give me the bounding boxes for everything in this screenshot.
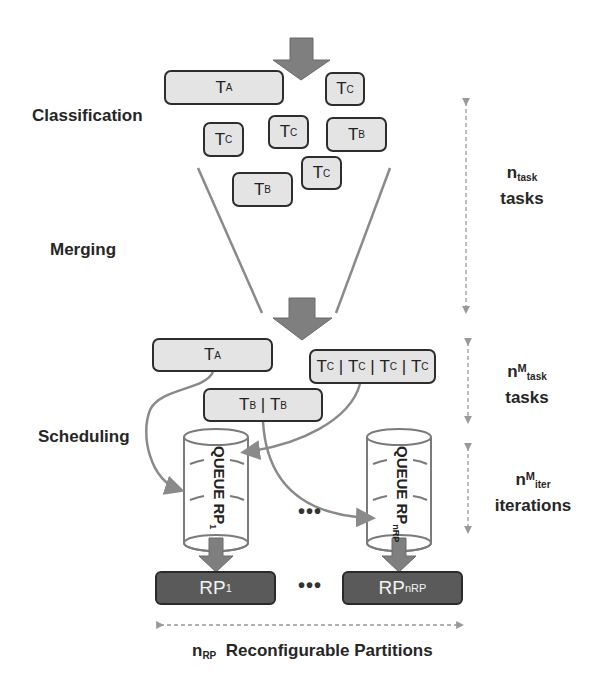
task-box-c: TC [301,156,342,190]
chain-separator: | [256,395,270,415]
count-superscript: M [518,362,527,374]
count-symbol: n [515,470,525,489]
task-class: C [421,361,428,372]
annotation-partitions: nRP Reconfigurable Partitions [192,641,433,661]
count-unit: iterations [495,496,572,515]
partition-index: nRP [405,582,426,594]
task-box-a: TA [164,70,284,105]
merged-task-b-chain: TB | TB [203,388,323,422]
partition-rp-1: RP1 [155,571,276,605]
task-name: T [204,345,214,365]
task-name: T [254,180,264,200]
stage-label-classification: Classification [32,106,143,126]
diagram-graphics [0,0,591,688]
task-class: C [390,361,397,372]
partition-name: RP [199,577,225,599]
task-class: C [327,361,334,372]
chain-separator: | [397,357,411,377]
task-name: T [348,357,358,377]
task-box-b: TB [326,117,387,152]
count-subscript: iter [535,479,551,490]
task-class: B [264,184,271,195]
task-class: B [280,400,287,411]
task-class: C [347,84,354,95]
count-subscript: task [527,371,547,382]
task-class: C [290,127,297,138]
count-symbol: n [507,362,517,381]
queue-label-1: QUEUE RP1 [208,446,228,529]
partition-rp-n: RPnRP [342,571,463,605]
queue-index: nRP [391,524,401,542]
count-symbol: n [507,163,517,182]
count-subscript: task [517,172,537,183]
stage-label-merging: Merging [50,240,116,260]
task-name: T [215,78,225,98]
task-name: T [379,357,389,377]
task-name: T [280,122,290,142]
queue-name: QUEUE RP [394,446,411,524]
count-symbol: n [192,641,202,660]
funnel-right-line [336,168,390,313]
task-name: T [215,130,225,150]
count-unit: tasks [500,189,543,208]
task-name: T [313,163,323,183]
count-superscript: M [526,470,535,482]
chain-separator: | [366,357,380,377]
partitions-ellipsis: ••• [298,574,322,597]
task-box-c: TC [203,122,244,157]
queues-ellipsis: ••• [298,500,322,523]
task-box-c: TC [325,72,365,106]
count-unit: Reconfigurable Partitions [226,641,433,660]
task-name: T [348,125,358,145]
task-class: A [214,350,221,361]
queue-name: QUEUE RP [211,446,228,524]
partition-name: RP [379,577,405,599]
merged-task-a: TA [152,338,273,372]
count-subscript: RP [202,650,216,661]
annotation-merged-tasks: nMtask tasks [482,358,572,408]
task-name: T [270,395,280,415]
task-class: C [358,361,365,372]
partition-index: 1 [226,582,232,594]
task-class: C [225,134,232,145]
task-box-b: TB [232,172,293,207]
task-box-c: TC [268,115,309,149]
stage-label-scheduling: Scheduling [38,427,130,447]
task-name: T [316,357,326,377]
queue-index: 1 [208,524,218,529]
task-name: T [411,357,421,377]
queue-label-n: QUEUE RPnRP [391,446,411,542]
merged-task-c-chain: TC | TC | TC | TC [309,349,436,384]
task-name: T [336,79,346,99]
task-name: T [239,395,249,415]
task-class: A [226,82,233,93]
annotation-iterations: nMiter iterations [478,466,588,516]
annotation-tasks: ntask tasks [482,162,562,209]
count-unit: tasks [505,388,548,407]
merge-arrow-icon [273,298,332,340]
task-class: B [358,129,365,140]
task-class: B [249,400,256,411]
task-class: C [323,168,330,179]
chain-separator: | [334,357,348,377]
